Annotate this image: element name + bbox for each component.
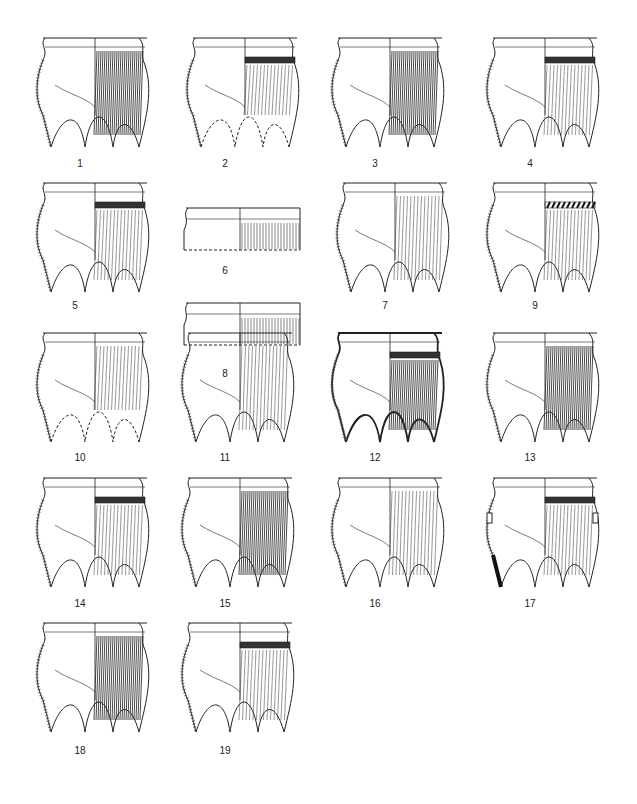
figure-number: 15	[210, 598, 240, 609]
vessel-drawing	[485, 180, 605, 300]
vessel-drawing	[180, 620, 300, 740]
vessel-drawing	[485, 35, 605, 155]
figure-number: 2	[210, 158, 240, 169]
figure-number: 13	[515, 452, 545, 463]
figure-number: 18	[65, 745, 95, 756]
figure-number: 11	[210, 452, 240, 463]
figure-number: 7	[370, 300, 400, 311]
vessel-drawing	[485, 330, 605, 450]
vessel-drawing	[485, 475, 605, 595]
vessel-drawing	[330, 475, 450, 595]
vessel-drawing	[185, 35, 305, 155]
figure-number: 10	[65, 452, 95, 463]
vessel-drawing	[180, 475, 300, 595]
vessel-drawing	[178, 205, 308, 265]
figure-number: 1	[65, 158, 95, 169]
figure-number: 17	[515, 598, 545, 609]
figure-number: 4	[515, 158, 545, 169]
figure-number: 19	[210, 745, 240, 756]
figure-number: 5	[60, 300, 90, 311]
vessel-drawing	[330, 330, 450, 450]
figure-number: 16	[360, 598, 390, 609]
figure-number: 9	[520, 300, 550, 311]
figure-number: 6	[210, 265, 240, 276]
vessel-drawing	[180, 330, 300, 450]
vessel-drawing	[35, 35, 155, 155]
vessel-drawing	[330, 35, 450, 155]
vessel-drawing	[35, 475, 155, 595]
figure-number: 12	[360, 452, 390, 463]
vessel-drawing	[335, 180, 455, 300]
vessel-drawing	[35, 330, 155, 450]
figure-number: 14	[65, 598, 95, 609]
vessel-drawing	[35, 620, 155, 740]
figure-number: 3	[360, 158, 390, 169]
vessel-drawing	[35, 180, 155, 300]
